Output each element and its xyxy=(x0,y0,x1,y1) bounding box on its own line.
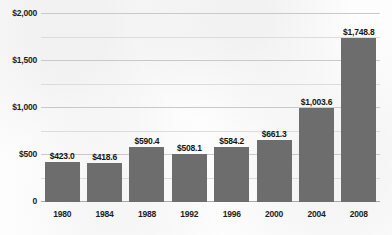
x-axis-tick-label: 1996 xyxy=(208,209,256,219)
gridline-major xyxy=(41,60,380,61)
bar xyxy=(172,154,207,202)
x-axis-tick-label: 2000 xyxy=(250,209,298,219)
bar-chart: $423.0$418.6$590.4$508.1$584.2$661.3$1,0… xyxy=(0,0,392,235)
gridline-minor xyxy=(41,37,380,38)
x-axis-tick-labels: 19801984198819921996200020042008 xyxy=(41,203,380,227)
bar-value-label: $418.6 xyxy=(78,152,131,162)
bar xyxy=(257,140,292,202)
bar xyxy=(214,147,249,202)
bar-value-label: $1,748.8 xyxy=(332,27,385,37)
x-axis-tick-label: 1984 xyxy=(81,209,129,219)
bar xyxy=(87,163,122,202)
gridline-minor xyxy=(41,84,380,85)
plot-area: $423.0$418.6$590.4$508.1$584.2$661.3$1,0… xyxy=(41,14,380,202)
bar-value-label: $661.3 xyxy=(248,129,301,139)
bar xyxy=(45,162,80,202)
gridline-major xyxy=(41,13,380,14)
y-axis-tick-label: $2,000 xyxy=(0,8,37,221)
bar xyxy=(341,38,376,202)
bar-value-label: $1,003.6 xyxy=(290,97,343,107)
x-axis-tick-label: 1988 xyxy=(123,209,171,219)
x-axis-tick-label: 2004 xyxy=(292,209,340,219)
x-axis-tick-label: 1992 xyxy=(165,209,213,219)
bar xyxy=(299,108,334,202)
bar xyxy=(129,147,164,202)
x-axis-tick-label: 1980 xyxy=(38,209,86,219)
x-axis-tick-label: 2008 xyxy=(335,209,383,219)
